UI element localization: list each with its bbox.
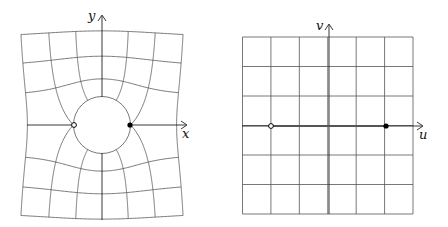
v-axis-label: v <box>316 18 324 33</box>
open-point-marker <box>72 123 77 128</box>
w-plane-panel: u v <box>242 18 427 214</box>
filled-point-marker <box>127 122 132 127</box>
filled-point-marker <box>383 123 388 128</box>
figure: x y u v <box>0 0 448 227</box>
unit-circle <box>74 97 131 154</box>
y-axis-label: y <box>87 8 96 23</box>
x-axis-label: x <box>182 126 190 141</box>
open-point-marker <box>269 124 274 129</box>
u-axis-label: u <box>419 127 427 142</box>
y-axis <box>98 15 106 220</box>
z-plane-panel: x y <box>21 8 190 220</box>
x-axis <box>27 121 187 129</box>
